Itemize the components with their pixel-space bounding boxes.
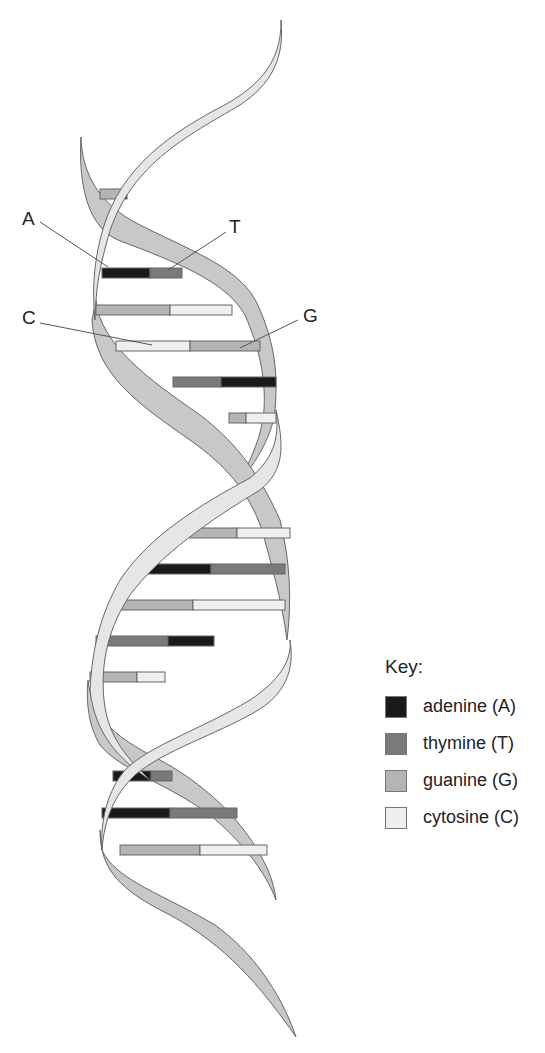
dna-double-helix-diagram [0, 0, 545, 1053]
legend-label: thymine (T) [423, 733, 514, 754]
base-G [190, 341, 260, 351]
cytosine-swatch [385, 807, 407, 829]
base-T [150, 268, 182, 278]
base-C [193, 600, 285, 610]
leader-line [40, 222, 108, 267]
label-A: A [22, 208, 35, 230]
base-G [96, 305, 170, 315]
legend-item-adenine: adenine (A) [385, 688, 519, 725]
base-C [116, 341, 190, 351]
base-T [170, 808, 237, 818]
base-T [151, 771, 172, 781]
base-T [211, 564, 285, 574]
base-C [137, 672, 165, 682]
base-A [102, 268, 150, 278]
legend: Key: adenine (A) thymine (T) guanine (G)… [385, 656, 519, 836]
base-G [120, 845, 200, 855]
guanine-swatch [385, 770, 407, 792]
label-C: C [22, 307, 36, 329]
legend-title: Key: [385, 656, 519, 678]
base-A [221, 377, 276, 387]
base-A [102, 808, 170, 818]
base-C [170, 305, 232, 315]
thymine-swatch [385, 733, 407, 755]
base-G [115, 600, 193, 610]
base-C [200, 845, 267, 855]
base-C [237, 528, 290, 538]
base-C [246, 413, 276, 423]
adenine-swatch [385, 696, 407, 718]
label-T: T [229, 216, 241, 238]
legend-item-thymine: thymine (T) [385, 725, 519, 762]
base-A [168, 636, 214, 646]
legend-item-cytosine: cytosine (C) [385, 799, 519, 836]
label-G: G [303, 305, 318, 327]
legend-label: guanine (G) [423, 770, 518, 791]
legend-label: adenine (A) [423, 696, 516, 717]
legend-item-guanine: guanine (G) [385, 762, 519, 799]
legend-label: cytosine (C) [423, 807, 519, 828]
base-T [173, 377, 221, 387]
base-G [229, 413, 246, 423]
